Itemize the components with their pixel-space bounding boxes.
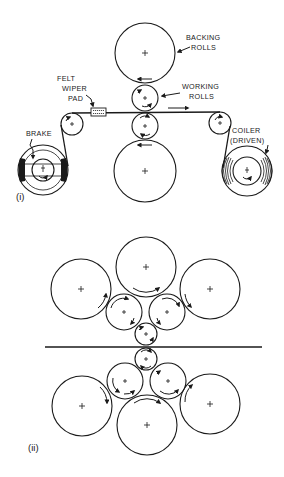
rotation-arrow-icon bbox=[141, 350, 151, 352]
lower-working-roll bbox=[132, 113, 158, 139]
rotation-arrow-icon bbox=[124, 391, 134, 394]
annotations-part-i: BACKING ROLLS WORKING ROLLS FELT WIPER P… bbox=[16, 33, 268, 202]
rotation-arrow-icon bbox=[111, 298, 128, 308]
upper-center-backing-roll bbox=[116, 237, 176, 297]
metal-strip bbox=[61, 108, 230, 168]
rotation-arrow-icon bbox=[113, 378, 119, 392]
left-guide-roll bbox=[61, 113, 83, 135]
coiler-driven bbox=[222, 146, 272, 196]
label-working-rolls-2: ROLLS bbox=[189, 92, 214, 101]
part-i-four-high-mill: BACKING ROLLS WORKING ROLLS FELT WIPER P… bbox=[16, 23, 272, 202]
upper-right-backing-roll bbox=[180, 259, 240, 319]
label-coiler: COILER bbox=[232, 126, 261, 135]
rotation-arrow-icon bbox=[157, 371, 160, 374]
part-ii-cluster-mill: (ii) bbox=[28, 237, 262, 455]
rotation-arrow-icon bbox=[133, 288, 159, 292]
leader-arrow-icon bbox=[178, 47, 190, 52]
rotation-arrow-icon bbox=[185, 294, 191, 307]
lower-right-backing-roll bbox=[180, 374, 240, 434]
rotation-arrow-icon bbox=[160, 390, 178, 394]
rotation-arrow-icon bbox=[134, 399, 160, 403]
rotation-arrow-icon bbox=[138, 90, 141, 93]
leader-arrow-icon bbox=[162, 93, 180, 96]
upper-work-roll bbox=[135, 323, 157, 345]
upper-right-intermediate-roll bbox=[149, 294, 185, 330]
rotation-arrow-icon bbox=[139, 327, 143, 330]
label-working-rolls: WORKING bbox=[182, 82, 219, 91]
upper-working-roll bbox=[132, 85, 158, 111]
uncoiler-with-brake bbox=[18, 145, 68, 195]
rotation-arrow-icon bbox=[142, 104, 151, 107]
label-brake: BRAKE bbox=[26, 129, 52, 138]
right-guide-roll bbox=[209, 112, 231, 134]
lower-center-backing-roll bbox=[117, 395, 177, 455]
label-pad: PAD bbox=[68, 94, 83, 103]
brake-shoe-left bbox=[19, 158, 26, 182]
upper-backing-roll bbox=[115, 23, 175, 83]
lower-right-intermediate-roll bbox=[150, 363, 186, 399]
label-driven: (DRIVEN) bbox=[230, 136, 264, 145]
lower-left-backing-roll bbox=[52, 376, 112, 436]
lower-backing-roll bbox=[114, 140, 176, 202]
rotation-arrow-icon bbox=[150, 338, 153, 341]
lower-work-roll bbox=[135, 348, 157, 370]
rotation-arrow-icon bbox=[185, 385, 192, 402]
rotation-arrow-icon bbox=[140, 116, 149, 118]
upper-left-intermediate-roll bbox=[106, 294, 142, 330]
brake-shoe-right bbox=[61, 158, 68, 182]
label-backing-rolls-2: ROLLS bbox=[191, 43, 216, 52]
rotation-arrow-icon bbox=[131, 318, 134, 324]
upper-left-backing-roll bbox=[51, 259, 111, 319]
rotation-arrow-icon bbox=[141, 134, 150, 135]
label-wiper: WIPER bbox=[62, 84, 87, 93]
rotation-arrow-icon bbox=[98, 294, 106, 308]
part-ii-label: (ii) bbox=[28, 442, 39, 453]
rotation-arrow-icon bbox=[66, 117, 70, 121]
leader-arrow-icon bbox=[86, 95, 93, 106]
label-backing-rolls: BACKING bbox=[186, 33, 221, 42]
lower-left-intermediate-roll bbox=[107, 363, 143, 399]
label-felt: FELT bbox=[57, 74, 76, 83]
rotation-arrow-icon bbox=[100, 387, 107, 403]
rolling-mill-diagram: BACKING ROLLS WORKING ROLLS FELT WIPER P… bbox=[0, 0, 284, 477]
rotation-arrow-icon bbox=[157, 318, 160, 324]
part-i-label: (i) bbox=[16, 191, 24, 202]
rotation-arrow-icon bbox=[162, 298, 179, 306]
rotation-arrow-icon bbox=[215, 117, 222, 120]
rotation-arrow-icon bbox=[141, 366, 151, 368]
rotation-arrow-icon bbox=[243, 177, 251, 179]
leader-arrow-icon bbox=[266, 145, 268, 153]
felt-wiper-pad bbox=[91, 108, 106, 116]
